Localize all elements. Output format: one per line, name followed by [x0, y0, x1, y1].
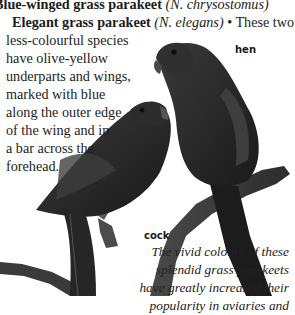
text-start: These two — [235, 14, 294, 30]
body-line: forehead. — [6, 157, 59, 175]
species-latin: (N. chrysostomus) — [165, 0, 268, 12]
hen-label: hen — [235, 44, 256, 55]
species-name: Elegant grass parakeet — [12, 14, 151, 30]
body-line: less-colourful species — [6, 31, 129, 49]
species-heading-blue-winged: Blue-winged grass parakeet (N. chrysosto… — [0, 0, 269, 13]
caption-line: The vivid colours of these — [151, 243, 289, 261]
caption-line: popularity in aviaries and — [150, 297, 289, 315]
body-line: marked with blue — [6, 85, 105, 103]
species-heading-elegant: Elegant grass parakeet (N. elegans) • Th… — [12, 13, 294, 31]
species-name: Blue-winged grass parakeet — [0, 0, 162, 12]
body-line: a bar across the — [6, 139, 94, 157]
species-latin: (N. elegans) — [154, 14, 223, 30]
body-line: have olive-yellow — [6, 49, 108, 67]
body-line: along the outer edge — [6, 103, 121, 121]
body-line: underparts and wings, — [6, 67, 131, 85]
caption-line: have greatly increased their — [139, 279, 289, 297]
body-line: of the wing and in — [6, 121, 109, 139]
caption-line: splendid grass parakeets — [156, 261, 289, 279]
bullet: • — [227, 14, 232, 30]
cock-label: cock — [144, 230, 169, 241]
